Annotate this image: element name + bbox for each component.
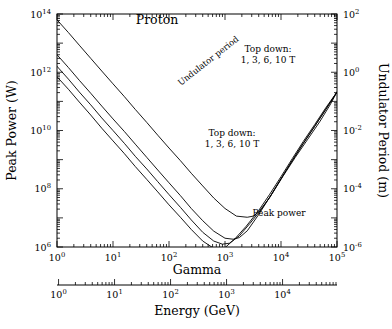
energy-tick-label-1: 101: [106, 288, 122, 300]
y-tick-label-2-base: 1010: [30, 124, 51, 136]
y2-tick-label-2-base: 10-2: [343, 124, 362, 136]
y-tick-label-0-base: 1014: [30, 8, 51, 20]
y2-tick-label-4-base: 10-6: [343, 241, 362, 253]
y2-tick-label-0-base: 102: [343, 8, 359, 20]
y-axis-title: Peak Power (W): [4, 80, 19, 180]
peak-power-label: Peak power: [252, 208, 306, 218]
x-axis-title-2: Energy (GeV): [154, 303, 240, 318]
x-tick-label-0-base: 100: [49, 251, 65, 263]
y-tick-label-4: 106: [35, 241, 51, 253]
y2-tick-label-0: 102: [343, 8, 359, 20]
energy-tick-label-0-base: 100: [50, 288, 66, 300]
plot-title: Proton: [136, 12, 179, 27]
y2-tick-label-2: 10-2: [343, 124, 362, 136]
curve-peak_power-1T: [57, 20, 337, 217]
y2-tick-label-1-base: 100: [343, 66, 359, 78]
y2-tick-label-3: 10-4: [343, 182, 362, 194]
top-down-lower-line1: Top down:: [208, 128, 255, 138]
y-tick-label-4-base: 106: [35, 241, 51, 253]
y-tick-label-0: 1014: [30, 8, 51, 20]
x-tick-label-5: 105: [329, 251, 345, 263]
x-tick-label-5-base: 105: [329, 251, 345, 263]
y-axis-title-2: Undulator Period (m): [376, 63, 391, 198]
y-tick-label-1: 1012: [30, 66, 51, 78]
x-axis-title: Gamma: [173, 262, 222, 277]
energy-tick-label-4-base: 104: [274, 288, 290, 300]
energy-tick-label-3-base: 103: [218, 288, 234, 300]
energy-tick-label-2: 102: [162, 288, 178, 300]
chart-figure: 1001011021031041051014101210101081061021…: [0, 0, 392, 329]
x-tick-label-4-base: 104: [273, 251, 289, 263]
x-tick-label-1-base: 101: [105, 251, 121, 263]
y2-tick-label-4: 10-6: [343, 241, 362, 253]
y-tick-label-2: 1010: [30, 124, 51, 136]
top-down-upper-line1: Top down:: [244, 44, 291, 54]
y-tick-label-3: 108: [35, 182, 51, 194]
y2-tick-label-3-base: 10-4: [343, 182, 362, 194]
energy-tick-label-2-base: 102: [162, 288, 178, 300]
x-tick-label-4: 104: [273, 251, 289, 263]
y-tick-label-3-base: 108: [35, 182, 51, 194]
energy-tick-label-1-base: 101: [106, 288, 122, 300]
energy-tick-label-0: 100: [50, 288, 66, 300]
y-tick-label-1-base: 1012: [30, 66, 51, 78]
y2-tick-label-1: 100: [343, 66, 359, 78]
x-tick-label-1: 101: [105, 251, 121, 263]
undulator-period-label: Undulator period: [176, 33, 241, 87]
energy-tick-label-3: 103: [218, 288, 234, 300]
x-tick-label-0: 100: [49, 251, 65, 263]
top-down-lower-line2: 1, 3, 6, 10 T: [205, 139, 260, 149]
energy-tick-label-4: 104: [274, 288, 290, 300]
top-down-upper-line2: 1, 3, 6, 10 T: [241, 55, 296, 65]
chart-canvas: 1001011021031041051014101210101081061021…: [0, 0, 392, 329]
